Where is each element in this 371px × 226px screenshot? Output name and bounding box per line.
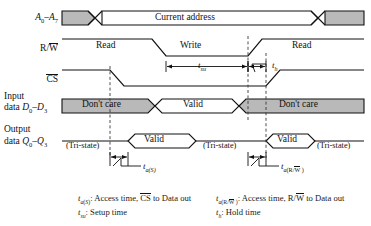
signal-label-input-data-line1: Input (4, 92, 24, 102)
measurement-tsu (166, 61, 248, 72)
caption-access-cs-post: to Data out (151, 193, 191, 203)
output-text-tristate-3: (Tri-state) (317, 142, 350, 150)
measurement-label-tsu: tsu (198, 61, 206, 72)
output-text-valid-2: Valid (277, 135, 297, 145)
output-text-valid-1: Valid (144, 135, 164, 145)
caption-access-cs-overline: CS (140, 193, 151, 203)
rw-text-write: Write (180, 41, 201, 51)
signal-label-output-data-line2: data Q0–Q3 (4, 137, 47, 148)
signal-label-address: A0–A7 (12, 13, 58, 24)
caption-access-cs-text: : Access time, (90, 193, 140, 203)
th-arrowhead-right (260, 65, 265, 69)
tarw-arrowhead-right (260, 155, 265, 159)
caption-setup: tsu: Setup time (78, 207, 127, 219)
signal-label-cs: CS (12, 74, 58, 85)
tas-arrowhead-left (111, 155, 116, 159)
th-leader (252, 64, 266, 72)
tarw-leader (251, 158, 279, 166)
waveform-cs (62, 70, 364, 86)
rw-text-read-1: Read (96, 41, 116, 51)
measurement-ta-s (110, 152, 141, 166)
caption-access-rw-post: to Data out (304, 193, 344, 203)
measurement-ta-rw (248, 152, 279, 166)
signal-label-input-data-line2: data D0–D3 (4, 103, 47, 114)
tarw-arrowhead-left (249, 155, 254, 159)
tas-leader (113, 158, 141, 166)
caption-hold: th: Hold time (216, 207, 260, 219)
address-valid-text: Current address (155, 13, 215, 23)
tsu-arrowhead-left (167, 65, 172, 69)
caption-hold-text: : Hold time (221, 207, 260, 217)
measurement-th (248, 61, 266, 72)
measurement-label-ta-s: ta(S) (143, 162, 156, 173)
rw-text-read-2: Read (292, 41, 312, 51)
tas-arrowhead-right (122, 155, 127, 159)
caption-setup-text: : Setup time (86, 207, 128, 217)
input-text-valid: Valid (183, 100, 203, 110)
input-text-dontcare-2: Don't care (279, 100, 318, 110)
signal-label-output-data-line1: Output (4, 125, 30, 135)
caption-access-rw-overline: W (296, 193, 304, 203)
caption-access-rw: ta(R/W ): Access time, R/W to Data out (216, 193, 344, 206)
address-dontcare-right (325, 11, 364, 25)
measurement-label-th: th (272, 61, 278, 72)
input-text-dontcare-1: Don't care (82, 100, 121, 110)
measurement-label-ta-rw: ta(R/W ) (281, 162, 304, 173)
signal-label-rw: R/W (12, 43, 58, 54)
caption-access-cs: ta(S): Access time, CS to Data out (78, 193, 191, 205)
output-text-tristate-1: (Tri-state) (66, 142, 99, 150)
cs-trace (62, 70, 364, 86)
caption-access-rw-text: : Access time, R/ (238, 193, 296, 203)
output-text-tristate-2: (Tri-state) (203, 142, 236, 150)
tsu-arrowhead-right (242, 65, 247, 69)
